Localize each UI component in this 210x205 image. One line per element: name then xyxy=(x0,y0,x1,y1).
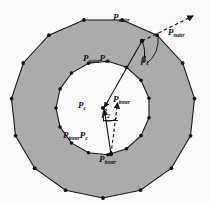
polygon-vertex xyxy=(58,87,62,91)
label-p-outer-top: Pouter xyxy=(113,13,130,22)
label-p-inner-right: Pinner xyxy=(113,95,130,104)
polygon-vertex xyxy=(193,97,197,101)
polygon-vertex xyxy=(139,188,143,192)
diagram-canvas: Pouter Pouter PouterPc β1 Pc Pinner β2 P… xyxy=(0,0,210,205)
label-p-inner-bottom: Pinner xyxy=(99,155,116,164)
polygon-vertex xyxy=(10,97,14,101)
label-vector-p-outer-p-c: PouterPc xyxy=(83,54,107,63)
polygon-vertex xyxy=(147,116,151,120)
point-p-outer xyxy=(140,39,144,43)
polygon-vertex xyxy=(87,151,91,155)
polygon-vertex xyxy=(21,61,25,65)
polygon-vertex xyxy=(101,196,105,200)
polygon-vertex xyxy=(147,96,151,100)
polygon-vertex xyxy=(189,134,193,138)
polygon-vertex xyxy=(14,134,18,138)
polygon-vertex xyxy=(181,61,185,65)
polygon-vertex xyxy=(47,33,51,37)
label-angle-beta-1: β1 xyxy=(141,55,149,65)
label-p-c-center: Pc xyxy=(78,101,86,110)
polygon-vertex xyxy=(33,166,37,170)
polygon-vertex xyxy=(54,106,58,110)
polygon-vertex xyxy=(70,71,74,75)
label-vector-p-inner-p-c: PinnerPc xyxy=(63,131,88,140)
polygon-vertex xyxy=(139,79,143,83)
polygon-vertex xyxy=(125,147,129,151)
label-angle-beta-2: β2 xyxy=(102,108,110,118)
polygon-vertex xyxy=(82,18,86,22)
polygon-vertex xyxy=(64,188,68,192)
polygon-vertex xyxy=(139,134,143,138)
polygon-vertex xyxy=(70,141,74,145)
inner-direction-ray xyxy=(111,103,118,154)
label-p-outer-direction: Pouter xyxy=(168,28,185,37)
polygon-vertex xyxy=(169,166,173,170)
polygon-vertex xyxy=(58,125,62,129)
